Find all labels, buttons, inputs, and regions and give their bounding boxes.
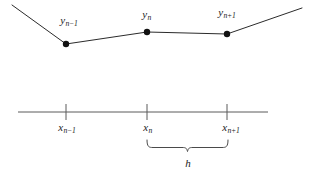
function-curve — [12, 5, 302, 44]
x-label-n-subscript: n — [148, 126, 152, 135]
diagram-svg — [0, 0, 314, 177]
x-label-n-plus-1-subscript: n+1 — [227, 126, 239, 135]
y-label-n-subscript: n — [147, 13, 151, 22]
y-label-n-plus-1-subscript: n+1 — [223, 11, 235, 20]
x-label-n-minus-1: xn−1 — [58, 122, 75, 133]
sample-point-n-plus-1 — [224, 31, 230, 37]
x-label-n: xn — [143, 122, 152, 133]
figure-canvas: yn−1 yn yn+1 xn−1 xn xn+1 h — [0, 0, 314, 177]
y-label-n: yn — [142, 9, 151, 20]
sample-point-n-minus-1 — [63, 41, 69, 47]
x-label-n-minus-1-subscript: n−1 — [63, 126, 75, 135]
y-label-n-minus-1: yn−1 — [60, 15, 77, 26]
spacing-brace-path — [147, 140, 228, 152]
x-label-n-plus-1: xn+1 — [222, 122, 239, 133]
brace-label-h: h — [185, 158, 191, 169]
y-label-n-minus-1-subscript: n−1 — [65, 19, 77, 28]
y-label-n-plus-1: yn+1 — [218, 7, 235, 18]
sample-point-n — [144, 29, 150, 35]
